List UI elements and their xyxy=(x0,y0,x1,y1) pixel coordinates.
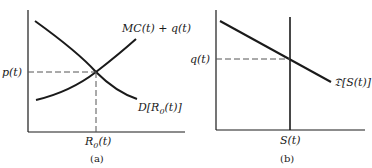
panel-b-caption: (b) xyxy=(280,153,294,164)
panel-b-demand-label: 𝔇[S(t)] xyxy=(334,76,372,89)
panel-a-y-label: p(t) xyxy=(2,66,22,79)
panel-a-caption: (a) xyxy=(90,153,104,164)
diagram-canvas: p(t) R0(t) MC(t) + q(t) D[R0(t)] (a) q(t… xyxy=(0,0,372,168)
panel-a-supply-label: MC(t) + q(t) xyxy=(121,22,191,35)
panel-b: q(t) S(t) 𝔇[S(t)] (b) xyxy=(190,10,372,164)
panel-a-demand-label: D[R0(t)] xyxy=(137,101,183,116)
panel-b-y-label: q(t) xyxy=(190,53,210,66)
panel-b-demand-line xyxy=(220,21,331,82)
panel-a-x-label: R0(t) xyxy=(84,135,111,150)
panel-b-x-label: S(t) xyxy=(280,134,301,147)
panel-a: p(t) R0(t) MC(t) + q(t) D[R0(t)] (a) xyxy=(2,10,191,164)
